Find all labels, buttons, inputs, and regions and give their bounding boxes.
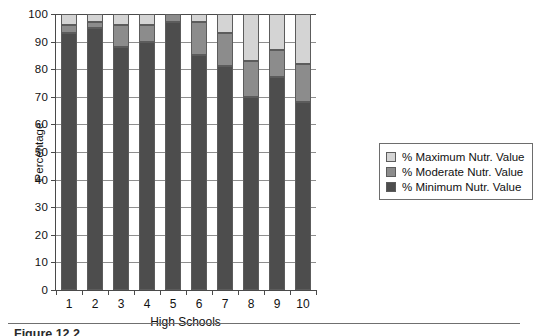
bar-column[interactable] [87, 14, 103, 290]
x-axis-tick [160, 290, 161, 295]
bar-column[interactable] [191, 14, 207, 290]
x-axis-tick-label: 9 [274, 297, 281, 311]
bar-segment[interactable] [217, 66, 233, 290]
bar-segment[interactable] [191, 14, 207, 22]
figure-caption: Figure 12.2 [14, 327, 80, 336]
x-axis-tick [56, 290, 57, 295]
y-axis-tick [51, 152, 56, 153]
bar-column[interactable] [61, 14, 77, 290]
bar-segment[interactable] [295, 64, 311, 103]
x-axis-tick [212, 290, 213, 295]
legend-swatch-icon [386, 182, 396, 192]
x-axis-tick [290, 290, 291, 295]
legend-item[interactable]: % Maximum Nutr. Value [386, 149, 525, 164]
x-axis-tick-label: 7 [222, 297, 229, 311]
bar-segment[interactable] [165, 22, 181, 290]
bar-column[interactable] [217, 14, 233, 290]
bar-segment[interactable] [269, 14, 285, 50]
bar-segment[interactable] [269, 77, 285, 290]
y-axis-tick-label: 0 [41, 284, 48, 296]
bar-segment[interactable] [139, 25, 155, 42]
x-axis-tick-label: 8 [248, 297, 255, 311]
y-axis-tick [51, 97, 56, 98]
bar-segment[interactable] [243, 14, 259, 61]
y-axis-tick-label: 90 [35, 36, 48, 48]
x-axis-tick-label: 2 [92, 297, 99, 311]
bar-segment[interactable] [217, 33, 233, 66]
x-axis-tick [264, 290, 265, 295]
bar-segment[interactable] [191, 22, 207, 55]
x-axis-tick [316, 290, 317, 295]
x-axis-tick-label: 5 [170, 297, 177, 311]
bar-segment[interactable] [61, 14, 77, 25]
x-axis-tick [186, 290, 187, 295]
x-axis-tick [108, 290, 109, 295]
y-axis-tick-label: 70 [35, 91, 48, 103]
x-axis-tick-label: 6 [196, 297, 203, 311]
bar-segment[interactable] [243, 61, 259, 97]
x-axis-title: High Schools [150, 315, 221, 329]
legend-item-label: % Moderate Nutr. Value [402, 166, 523, 178]
bar-segment[interactable] [139, 14, 155, 25]
y-axis-tick [51, 69, 56, 70]
y-axis-tick [51, 124, 56, 125]
bar-segment[interactable] [295, 102, 311, 290]
bar-column[interactable] [139, 14, 155, 290]
y-axis-tick-label: 20 [35, 229, 48, 241]
bar-column[interactable] [165, 14, 181, 290]
legend-item[interactable]: % Moderate Nutr. Value [386, 164, 525, 179]
bar-segment[interactable] [61, 25, 77, 33]
legend-swatch-icon [386, 167, 396, 177]
x-axis-tick-label: 1 [66, 297, 73, 311]
bar-segment[interactable] [113, 14, 129, 25]
bar-segment[interactable] [87, 14, 103, 22]
bar-segment[interactable] [87, 28, 103, 290]
x-axis-tick [82, 290, 83, 295]
legend-item[interactable]: % Minimum Nutr. Value [386, 179, 525, 194]
legend-item-label: % Minimum Nutr. Value [402, 181, 521, 193]
y-axis-tick [51, 262, 56, 263]
caption-divider [8, 323, 520, 324]
chart-plot-area: 010203040506070809010012345678910 High S… [55, 14, 316, 291]
x-axis-tick [134, 290, 135, 295]
bar-segment[interactable] [113, 47, 129, 290]
y-axis-title: Percentage [33, 123, 45, 182]
y-axis-tick [51, 207, 56, 208]
bar-segment[interactable] [191, 55, 207, 290]
bar-segment[interactable] [87, 22, 103, 28]
bar-segment[interactable] [139, 42, 155, 290]
y-axis-tick-label: 100 [28, 8, 48, 20]
y-axis-tick [51, 235, 56, 236]
x-axis-tick-label: 3 [118, 297, 125, 311]
bar-segment[interactable] [61, 33, 77, 290]
y-axis-tick-label: 10 [35, 256, 48, 268]
x-axis-tick [238, 290, 239, 295]
legend-item-label: % Maximum Nutr. Value [402, 151, 525, 163]
y-axis-tick-label: 80 [35, 63, 48, 75]
bar-segment[interactable] [295, 14, 311, 64]
bar-segment[interactable] [217, 14, 233, 33]
plot-frame: 010203040506070809010012345678910 [55, 14, 316, 291]
bar-segment[interactable] [243, 97, 259, 290]
bar-segment[interactable] [113, 25, 129, 47]
y-axis-tick [51, 180, 56, 181]
legend-swatch-icon [386, 152, 396, 162]
y-axis-tick [51, 14, 56, 15]
x-axis-tick-label: 4 [144, 297, 151, 311]
bar-column[interactable] [243, 14, 259, 290]
bar-column[interactable] [295, 14, 311, 290]
bar-segment[interactable] [165, 14, 181, 22]
bar-column[interactable] [113, 14, 129, 290]
x-axis-tick-label: 10 [296, 297, 309, 311]
y-axis-tick-label: 30 [35, 201, 48, 213]
figure-container: 010203040506070809010012345678910 High S… [0, 0, 540, 336]
y-axis-tick [51, 42, 56, 43]
bar-segment[interactable] [269, 50, 285, 78]
chart-legend: % Maximum Nutr. Value% Moderate Nutr. Va… [379, 143, 533, 200]
bar-column[interactable] [269, 14, 285, 290]
